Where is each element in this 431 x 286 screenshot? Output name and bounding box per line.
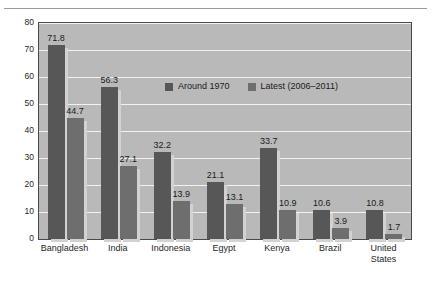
bar-rect (120, 166, 137, 239)
bar: 21.1 (207, 182, 224, 239)
bar-value-label: 13.1 (226, 193, 244, 202)
bar-value-label: 10.9 (279, 199, 297, 208)
bar-value-label: 13.9 (173, 190, 191, 199)
bar: 13.9 (173, 201, 190, 239)
x-axis-tick-label: Kenya (251, 243, 304, 254)
bar-value-label: 3.9 (335, 217, 348, 226)
bar-rect (385, 234, 402, 239)
bar-rect (332, 228, 349, 239)
y-axis-tick-label: 70 (2, 45, 34, 54)
y-axis: 01020304050607080 (0, 22, 34, 240)
header-divider (4, 8, 427, 9)
bar-rect (101, 87, 118, 239)
bar-rect (260, 148, 277, 239)
bar: 10.9 (279, 210, 296, 239)
bar-value-label: 71.8 (47, 34, 65, 43)
gridline (39, 50, 411, 51)
bar: 10.6 (313, 210, 330, 239)
y-axis-tick-label: 20 (2, 180, 34, 189)
bar: 10.8 (366, 210, 383, 239)
y-axis-tick-label: 80 (2, 18, 34, 27)
bar-value-label: 10.6 (313, 199, 331, 208)
bar: 32.2 (154, 152, 171, 239)
x-axis-tick-label: Egypt (197, 243, 250, 254)
bar-rect (154, 152, 171, 239)
bar: 27.1 (120, 166, 137, 239)
bar-value-label: 33.7 (260, 137, 278, 146)
x-axis-tick-label: Bangladesh (38, 243, 91, 254)
bar: 1.7 (385, 234, 402, 239)
y-axis-tick-label: 10 (2, 207, 34, 216)
gridline (39, 104, 411, 105)
x-axis-tick-label: Indonesia (144, 243, 197, 254)
bar-rect (279, 210, 296, 239)
y-axis-tick-label: 60 (2, 72, 34, 81)
legend-swatch-icon (165, 83, 173, 91)
legend-swatch-icon (248, 83, 256, 91)
bar: 33.7 (260, 148, 277, 239)
x-axis-tick-label: United States (357, 243, 410, 265)
x-axis: BangladeshIndiaIndonesiaEgyptKenyaBrazil… (38, 243, 412, 283)
y-axis-tick-label: 50 (2, 99, 34, 108)
legend-item: Around 1970 (165, 82, 230, 91)
bar-value-label: 56.3 (100, 76, 118, 85)
y-axis-tick-label: 40 (2, 126, 34, 135)
bar-rect (207, 182, 224, 239)
bar-rect (173, 201, 190, 239)
bar-value-label: 44.7 (66, 107, 84, 116)
gridline (39, 158, 411, 159)
bar-rect (48, 45, 65, 239)
gridline (39, 131, 411, 132)
bar-value-label: 21.1 (207, 171, 225, 180)
legend-label: Around 1970 (178, 82, 230, 91)
bar-value-label: 32.2 (154, 141, 172, 150)
bar-rect (366, 210, 383, 239)
x-axis-tick-label: India (91, 243, 144, 254)
plot-area: 71.844.756.327.132.213.921.113.133.710.9… (38, 22, 412, 240)
bar-chart-figure: 01020304050607080 71.844.756.327.132.213… (0, 0, 431, 286)
gridline (39, 23, 411, 24)
bar-rect (226, 204, 243, 239)
gridline (39, 77, 411, 78)
bar: 71.8 (48, 45, 65, 239)
legend-item: Latest (2006–2011) (248, 82, 338, 91)
x-axis-tick-label: Brazil (304, 243, 357, 254)
y-axis-tick-label: 30 (2, 153, 34, 162)
legend-label: Latest (2006–2011) (261, 82, 338, 91)
bar-rect (313, 210, 330, 239)
bar-value-label: 10.8 (366, 199, 384, 208)
bar: 13.1 (226, 204, 243, 239)
bar: 3.9 (332, 228, 349, 239)
bar-rect (67, 118, 84, 239)
chart-legend: Around 1970Latest (2006–2011) (165, 82, 338, 91)
bar: 44.7 (67, 118, 84, 239)
y-axis-tick-label: 0 (2, 234, 34, 243)
bar-value-label: 27.1 (119, 155, 137, 164)
bar-value-label: 1.7 (388, 223, 401, 232)
bar: 56.3 (101, 87, 118, 239)
